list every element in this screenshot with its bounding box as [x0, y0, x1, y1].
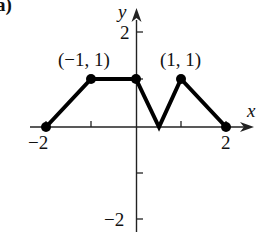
x-tick-label-2: 2 — [221, 132, 231, 153]
annotation-neg1-1: (−1, 1) — [58, 49, 110, 71]
y-tick-label-neg2: −2 — [104, 209, 124, 230]
y-axis-arrow-icon — [132, 8, 142, 22]
annotation-1-1: (1, 1) — [160, 49, 201, 71]
point-neg2-0 — [41, 122, 51, 132]
piecewise-graph: a) y x −2 2 2 −2 (−1, 1) (1, 1) — [0, 0, 262, 232]
y-axis — [132, 8, 144, 232]
panel-label: a) — [0, 0, 12, 16]
point-2-0 — [221, 122, 231, 132]
y-axis-label: y — [116, 1, 127, 22]
x-tick-label-neg2: −2 — [28, 132, 48, 153]
point-neg1-1 — [86, 74, 96, 84]
x-axis-label: x — [246, 100, 256, 121]
point-1-1 — [176, 74, 186, 84]
y-tick-label-2: 2 — [120, 22, 130, 43]
point-0-1 — [131, 74, 141, 84]
